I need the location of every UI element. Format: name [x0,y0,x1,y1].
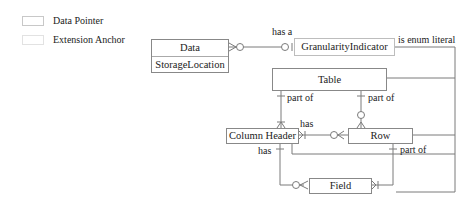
entity-data[interactable]: Data StorageLocation [151,39,229,73]
entity-column-header[interactable]: Column Header [226,128,299,144]
relationship-label: part of [287,92,313,103]
entity-name: Data [152,40,228,56]
entity-table[interactable]: Table [272,68,387,91]
entity-name: GranularityIndicator [295,39,394,55]
entity-field[interactable]: Field [309,178,372,194]
entity-name: Field [310,179,371,193]
relationship-label: has [300,118,313,129]
entity-name: Column Header [227,129,298,143]
relationship-lines [0,0,476,209]
relationship-label: is enum literal [398,34,455,45]
entity-name: Table [273,69,386,90]
entity-granularity-indicator[interactable]: GranularityIndicator [294,38,395,56]
entity-name: Row [349,129,412,143]
relationship-label: part of [368,92,394,103]
entity-row[interactable]: Row [348,128,413,144]
relationship-label: has [258,145,271,156]
relationship-label: has a [272,26,292,37]
entity-attribute: StorageLocation [152,56,228,73]
relationship-label: part of [400,144,426,155]
